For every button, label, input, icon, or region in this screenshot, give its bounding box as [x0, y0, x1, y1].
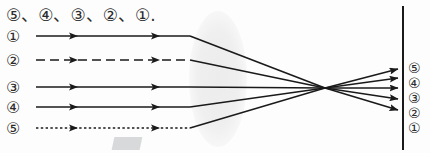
image-point-label-4: ② [408, 105, 421, 121]
refracted-segment-out-2 [325, 88, 398, 99]
incoming-ray-label-3: ③ [6, 78, 20, 97]
diagram-canvas: ⑤、④、③、②、①. ①②③④⑤ ⑤④③②① [0, 0, 430, 153]
image-point-label-3: ③ [408, 90, 421, 106]
refracted-segment-out-1 [325, 88, 398, 110]
scan-artifact-smudge [112, 137, 143, 150]
incoming-ray-label-5: ⑤ [6, 119, 20, 138]
incoming-ray-label-4: ④ [6, 98, 20, 117]
refracted-segment-out-5 [325, 69, 398, 88]
page-title: ⑤、④、③、②、①. [6, 1, 156, 26]
image-point-label-2: ④ [408, 75, 421, 91]
image-point-label-1: ⑤ [408, 60, 421, 76]
refracted-segment-out-4 [325, 78, 398, 88]
converging-lens-icon [189, 11, 247, 147]
refracted-segment-in-3 [190, 87, 325, 88]
image-point-label-5: ① [408, 120, 421, 136]
incoming-rays-group [36, 32, 190, 131]
incoming-ray-label-1: ① [6, 27, 20, 46]
incoming-ray-label-2: ② [6, 51, 20, 70]
